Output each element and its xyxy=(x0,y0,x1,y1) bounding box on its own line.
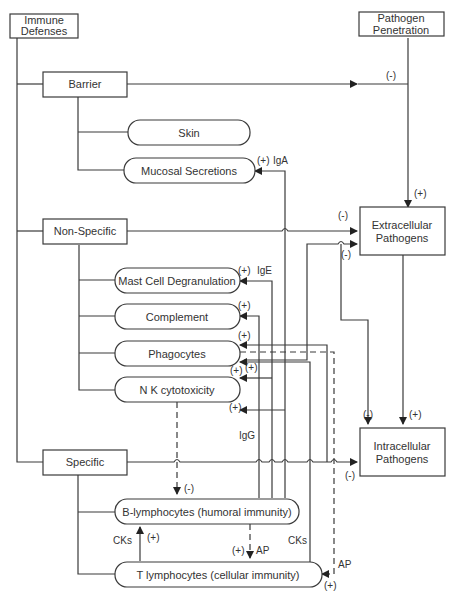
phagocytes-label: Phagocytes xyxy=(148,348,206,360)
edge-label: (-) xyxy=(184,483,194,494)
intracellular-label-1: Intracellular xyxy=(374,440,431,452)
nonspecific-inhibits-extracellular xyxy=(124,229,357,232)
complement-label: Complement xyxy=(146,311,208,323)
extracellular-label-2: Pathogens xyxy=(376,232,429,244)
antigen-presentation-line xyxy=(240,352,334,574)
intracellular-label-2: Pathogens xyxy=(376,453,429,465)
nonspecific-branch xyxy=(79,245,115,390)
edge-label: (+) xyxy=(257,155,270,166)
skin-label: Skin xyxy=(178,127,199,139)
edge-label: (-) xyxy=(363,409,373,420)
edge-label: (+) xyxy=(238,265,251,276)
barrier-label: Barrier xyxy=(68,78,101,90)
edge-label: (+) xyxy=(238,300,251,311)
edge-label: (-) xyxy=(341,249,351,260)
edge-label: (+) xyxy=(414,188,427,199)
barrier-branch xyxy=(78,97,128,170)
t-lymph-label: T lymphocytes (cellular immunity) xyxy=(136,569,299,581)
edge-label: (-) xyxy=(338,210,348,221)
pathogen-penetration-label-1: Pathogen xyxy=(377,12,424,24)
specific-label: Specific xyxy=(66,456,105,468)
complement-line xyxy=(240,316,259,498)
edge-label: (+) xyxy=(230,365,243,376)
edge-label: (+) xyxy=(324,580,337,591)
edge-label: CKs xyxy=(288,535,307,546)
ige-line xyxy=(240,281,272,498)
immune-defenses-label-2: Defenses xyxy=(21,25,68,37)
edge-label: IgA xyxy=(273,155,288,166)
edge-label: IgE xyxy=(257,265,272,276)
edge-label: AP xyxy=(256,545,270,556)
intracellular-box xyxy=(360,428,445,476)
edge-label: (+) xyxy=(238,330,251,341)
specific-inhibits-intracellular xyxy=(124,460,357,463)
edge-label: AP xyxy=(338,559,352,570)
non-specific-label: Non-Specific xyxy=(54,225,117,237)
specific-branch xyxy=(78,475,115,574)
mucosal-label: Mucosal Secretions xyxy=(141,165,237,177)
extracellular-label-1: Extracellular xyxy=(372,219,433,231)
edge-label: (+) xyxy=(147,532,160,543)
immune-defense-diagram: Immune Defenses Pathogen Penetration Bar… xyxy=(0,0,457,600)
edge-label: IgG xyxy=(239,430,255,441)
b-lymph-label: B-lymphocytes (humoral immunity) xyxy=(122,506,291,518)
edge-label: CKs xyxy=(113,535,132,546)
edge-label: (+) xyxy=(409,409,422,420)
pathogen-penetration-label-2: Penetration xyxy=(373,24,429,36)
extracellular-box xyxy=(360,207,445,255)
edge-label: (+) xyxy=(245,362,258,373)
extracellular-to-intracellular-neg xyxy=(341,244,368,424)
edge-label: (+) xyxy=(232,545,245,556)
edge-label: (-) xyxy=(345,470,355,481)
trunk-line xyxy=(17,38,43,462)
nk-label: N K cytotoxicity xyxy=(139,384,215,396)
edge-label: (+) xyxy=(229,402,242,413)
mast-cell-label: Mast Cell Degranulation xyxy=(118,275,235,287)
edge-label: (-) xyxy=(386,70,396,81)
